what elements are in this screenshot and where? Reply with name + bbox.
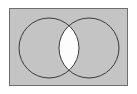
venn-diagram-canvas [0, 0, 137, 94]
venn-diagram-figure [0, 0, 137, 94]
